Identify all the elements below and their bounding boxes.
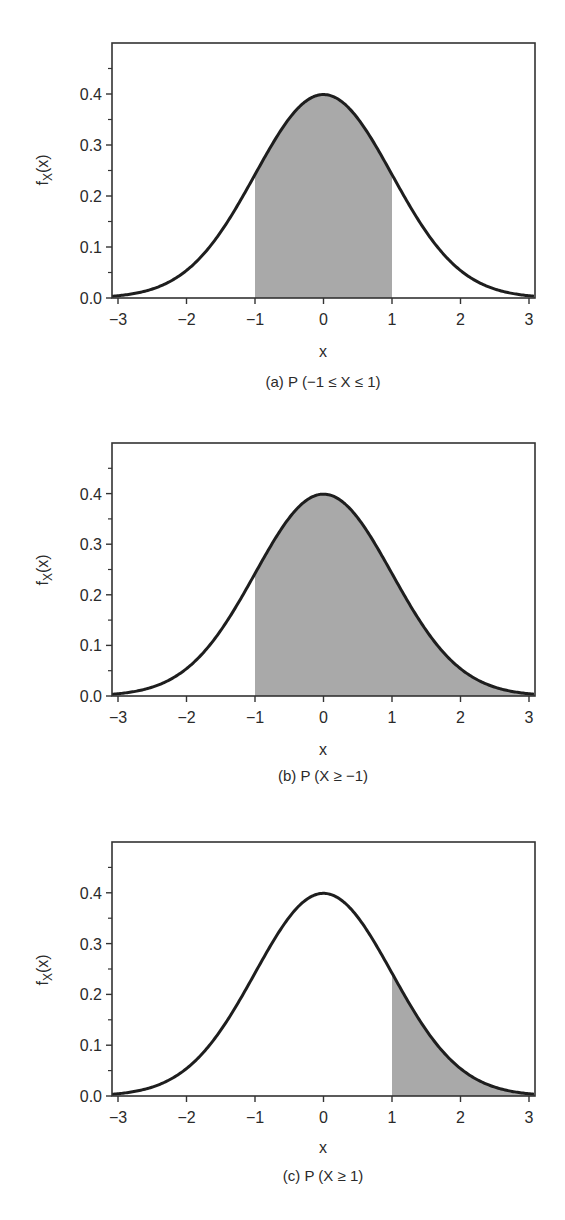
svg-text:0: 0	[319, 311, 328, 328]
svg-text:0.0: 0.0	[80, 688, 102, 705]
chart-a: 0.00.10.20.30.4 −3−2−10123 fX(x) x (a) P…	[0, 0, 565, 410]
x-axis-label: x	[319, 741, 327, 758]
svg-text:0.4: 0.4	[80, 86, 102, 103]
chart-caption: (c) P (X ≥ 1)	[283, 1167, 363, 1184]
svg-text:0.0: 0.0	[80, 290, 102, 307]
y-axis-ticks: 0.00.10.20.30.4	[80, 468, 112, 705]
svg-text:−2: −2	[177, 311, 195, 328]
svg-text:0.1: 0.1	[80, 1037, 102, 1054]
svg-text:−2: −2	[177, 709, 195, 726]
shaded-region	[392, 973, 535, 1096]
svg-text:1: 1	[388, 311, 397, 328]
svg-text:−2: −2	[177, 1109, 195, 1126]
svg-text:0.3: 0.3	[80, 536, 102, 553]
chart-caption: (b) P (X ≥ −1)	[278, 767, 368, 784]
svg-text:0.0: 0.0	[80, 1088, 102, 1105]
x-axis-ticks: −3−2−10123	[109, 1096, 534, 1126]
svg-text:−1: −1	[246, 311, 264, 328]
svg-text:−3: −3	[109, 709, 127, 726]
svg-text:−3: −3	[109, 1109, 127, 1126]
y-axis-ticks: 0.00.10.20.30.4	[80, 69, 112, 308]
y-axis-label: fX(x)	[34, 554, 55, 585]
svg-text:0.2: 0.2	[80, 587, 102, 604]
svg-text:0.2: 0.2	[80, 986, 102, 1003]
pdf-curve	[112, 494, 534, 694]
shaded-region	[255, 95, 392, 298]
x-axis-label: x	[319, 1139, 327, 1156]
svg-text:−3: −3	[109, 311, 127, 328]
svg-text:0.3: 0.3	[80, 936, 102, 953]
x-axis-ticks: −3−2−10123	[109, 696, 534, 726]
svg-text:0: 0	[319, 709, 328, 726]
svg-text:0.4: 0.4	[80, 885, 102, 902]
chart-caption: (a) P (−1 ≤ X ≤ 1)	[266, 373, 381, 390]
svg-text:0.4: 0.4	[80, 486, 102, 503]
shaded-region	[255, 494, 535, 696]
svg-text:0.3: 0.3	[80, 137, 102, 154]
x-axis-label: x	[319, 343, 327, 360]
svg-text:1: 1	[388, 709, 397, 726]
x-axis-ticks: −3−2−10123	[109, 298, 534, 328]
svg-text:0.1: 0.1	[80, 239, 102, 256]
svg-text:2: 2	[456, 1109, 465, 1126]
svg-text:3: 3	[525, 311, 534, 328]
svg-text:2: 2	[456, 311, 465, 328]
svg-text:2: 2	[456, 709, 465, 726]
svg-text:−1: −1	[246, 709, 264, 726]
pdf-curve	[112, 893, 534, 1094]
svg-text:0.1: 0.1	[80, 637, 102, 654]
svg-text:1: 1	[388, 1109, 397, 1126]
y-axis-ticks: 0.00.10.20.30.4	[80, 867, 112, 1105]
svg-text:0: 0	[319, 1109, 328, 1126]
y-axis-label: fX(x)	[34, 154, 55, 185]
svg-text:0.2: 0.2	[80, 188, 102, 205]
panel-a: 0.00.10.20.30.4 −3−2−10123 fX(x) x (a) P…	[0, 0, 565, 410]
y-axis-label: fX(x)	[34, 954, 55, 985]
svg-text:3: 3	[525, 1109, 534, 1126]
plot-frame	[112, 842, 535, 1096]
svg-text:−1: −1	[246, 1109, 264, 1126]
svg-text:3: 3	[525, 709, 534, 726]
plot-frame	[112, 443, 535, 696]
